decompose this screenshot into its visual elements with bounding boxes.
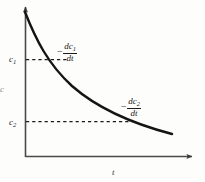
minus-sign-2: −: [121, 102, 127, 113]
fraction-1: dc1 dt: [63, 42, 77, 63]
y-tick-label-c2: c2: [9, 117, 16, 128]
x-axis-label: t: [112, 167, 115, 177]
y-tick-label-c1: c1: [9, 54, 16, 65]
concentration-decay-curve: [25, 12, 172, 134]
fraction-1-numerator: dc1: [63, 42, 77, 54]
fraction-2: dc2 dt: [127, 97, 141, 118]
minus-sign-1: −: [57, 47, 63, 58]
fraction-2-denominator: dt: [130, 109, 139, 119]
y-axis-label: c: [0, 84, 4, 94]
chart-figure: c1 c2 c t − dc1 dt − dc2 dt: [0, 0, 205, 182]
fraction-1-denominator: dt: [66, 54, 75, 64]
rate-annotation-2: − dc2 dt: [121, 97, 141, 118]
fraction-2-numerator: dc2: [127, 97, 141, 109]
chart-plot-area: [0, 0, 205, 182]
rate-annotation-1: − dc1 dt: [57, 42, 77, 63]
